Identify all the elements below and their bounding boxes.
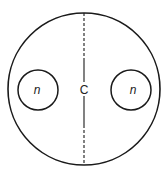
- right-circle-label: n: [130, 83, 137, 97]
- center-label: C: [80, 83, 89, 97]
- diagram-canvas: C n n: [0, 0, 168, 177]
- left-circle-label: n: [34, 83, 41, 97]
